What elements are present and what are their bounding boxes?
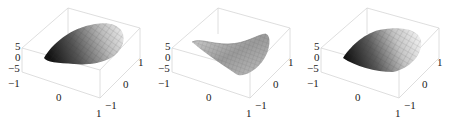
y-tick-neg1: −1 [404,100,416,111]
surface-plot-2: 5 0 −5 −1 0 1 −1 0 1 [150,0,300,122]
y-tick-1: 1 [138,57,144,68]
x-tick-1: 1 [246,108,252,119]
x-tick-neg1: −1 [307,78,319,89]
x-tick-0: 0 [56,92,62,103]
z-tick-neg5: −5 [307,63,319,74]
surface-plot-1: 5 0 −5 −1 0 1 −1 0 1 [0,0,150,122]
plot-graphic [0,0,150,122]
y-tick-0: 0 [422,79,428,90]
y-tick-0: 0 [123,79,129,90]
plot-graphic [299,0,449,122]
y-tick-1: 1 [288,57,294,68]
y-tick-0: 0 [273,79,279,90]
x-tick-0: 0 [206,92,212,103]
x-tick-1: 1 [395,108,401,119]
y-tick-neg1: −1 [255,100,267,111]
y-tick-neg1: −1 [105,100,117,111]
z-tick-neg5: −5 [158,63,170,74]
x-tick-neg1: −1 [158,78,170,89]
x-tick-1: 1 [96,108,102,119]
x-tick-0: 0 [355,92,361,103]
x-tick-neg1: −1 [8,78,20,89]
y-tick-1: 1 [437,57,443,68]
z-tick-neg5: −5 [8,63,20,74]
surface-plot-3: 5 0 −5 −1 0 1 −1 0 1 [299,0,449,122]
plot-graphic [150,0,300,122]
